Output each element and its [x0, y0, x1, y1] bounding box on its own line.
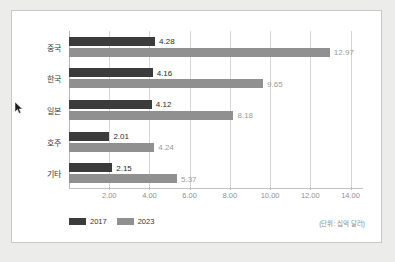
x-tick-mark	[109, 187, 110, 190]
x-tick-mark	[310, 187, 311, 190]
bar-2023: 5.37	[69, 174, 177, 183]
x-tick-label: 8.00	[223, 191, 238, 200]
x-tick-mark	[149, 187, 150, 190]
x-tick-mark	[190, 187, 191, 190]
x-tick-mark	[270, 187, 271, 190]
legend-label: 2023	[138, 217, 155, 226]
bar-value-label: 12.97	[334, 48, 354, 57]
x-axis-tick-labels: 2.004.006.008.0010.0012.0014.00	[69, 191, 363, 205]
bar-2017: 2.01	[69, 132, 109, 141]
x-tick-label: 12.00	[301, 191, 320, 200]
plot-area: 중국4.2812.97한국4.169.65일본4.128.18호주2.014.2…	[69, 31, 363, 189]
bar-value-label: 4.28	[159, 37, 175, 46]
legend-label: 2017	[90, 217, 107, 226]
bar-value-label: 2.01	[113, 132, 129, 141]
bar-value-label: 5.37	[181, 174, 197, 183]
x-tick-label: 10.00	[261, 191, 280, 200]
category-label: 중국	[47, 41, 61, 52]
chart-legend: 20172023	[69, 217, 154, 226]
x-tick-label: 2.00	[102, 191, 117, 200]
bar-2017: 2.15	[69, 163, 112, 172]
category-row: 한국4.169.65	[69, 63, 363, 95]
x-tick-label: 4.00	[142, 191, 157, 200]
legend-swatch	[117, 218, 134, 225]
x-tick-mark	[351, 187, 352, 190]
bar-2017: 4.28	[69, 37, 155, 46]
category-row: 기타2.155.37	[69, 157, 363, 189]
bar-2023: 12.97	[69, 48, 330, 57]
category-label: 호주	[47, 136, 61, 147]
bar-2023: 8.18	[69, 111, 233, 120]
bar-2023: 9.65	[69, 79, 263, 88]
bar-value-label: 2.15	[116, 163, 132, 172]
legend-item-2023[interactable]: 2023	[117, 217, 155, 226]
bar-value-label: 4.24	[158, 143, 174, 152]
category-row: 중국4.2812.97	[69, 31, 363, 63]
bar-2017: 4.16	[69, 68, 153, 77]
bar-value-label: 9.65	[267, 79, 283, 88]
x-tick-label: 14.00	[341, 191, 360, 200]
legend-item-2017[interactable]: 2017	[69, 217, 107, 226]
category-row: 일본4.128.18	[69, 94, 363, 126]
chart-card: 중국4.2812.97한국4.169.65일본4.128.18호주2.014.2…	[11, 10, 382, 243]
bar-2023: 4.24	[69, 143, 154, 152]
category-label: 일본	[47, 104, 61, 115]
x-tick-mark	[230, 187, 231, 190]
bar-2017: 4.12	[69, 100, 152, 109]
bar-value-label: 4.12	[156, 100, 172, 109]
bar-value-label: 8.18	[237, 111, 253, 120]
category-label: 한국	[47, 73, 61, 84]
bar-value-label: 4.16	[157, 68, 173, 77]
x-tick-label: 6.00	[182, 191, 197, 200]
category-label: 기타	[47, 168, 61, 179]
unit-annotation: (단위: 십억 달러)	[319, 218, 365, 228]
legend-swatch	[69, 218, 86, 225]
category-row: 호주2.014.24	[69, 126, 363, 158]
